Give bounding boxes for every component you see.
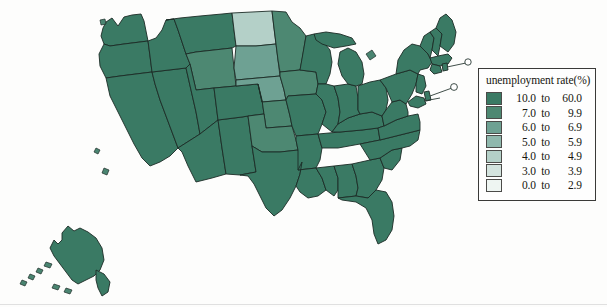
aleutian-island-6 (64, 288, 72, 294)
legend-label: 4.0to4.9 (513, 150, 582, 162)
legend-row[interactable]: 5.0to5.9 (486, 135, 589, 150)
state-fl[interactable] (338, 190, 394, 244)
legend-swatch (486, 179, 502, 192)
coastal-island-1 (100, 19, 106, 25)
legend-swatch (486, 150, 502, 163)
state-mi-lower[interactable] (338, 48, 364, 86)
legend-swatch (486, 164, 502, 177)
legend-row[interactable]: 0.0to2.9 (486, 178, 589, 193)
state-sd[interactable] (234, 44, 280, 80)
aleutian-island-5 (52, 284, 60, 290)
legend-row[interactable]: 10.0to60.0 (486, 91, 589, 106)
state-wa[interactable] (101, 14, 148, 46)
legend-row[interactable]: 3.0to3.9 (486, 164, 589, 179)
coastal-island-3 (102, 168, 109, 175)
legend-label: 0.0to2.9 (513, 179, 582, 191)
aleutian-island-4 (20, 280, 27, 286)
leader-dot-de (451, 84, 458, 91)
state-nd[interactable] (232, 11, 276, 46)
legend-row[interactable]: 4.0to4.9 (486, 149, 589, 164)
leader-dot-ri (465, 59, 471, 65)
coastal-island-2 (94, 148, 100, 154)
legend-row[interactable]: 7.0to9.9 (486, 106, 589, 121)
coastal-island-4 (366, 50, 376, 60)
legend-label: 7.0to9.9 (513, 107, 582, 119)
leader-line-ri (447, 63, 466, 67)
aleutian-island-3 (28, 274, 35, 280)
legend-swatch (486, 121, 502, 134)
aleutian-island-2 (36, 268, 43, 274)
legend-swatch (486, 106, 502, 119)
state-ar[interactable] (296, 134, 322, 170)
aleutian-island-1 (44, 262, 52, 268)
legend-swatch (486, 92, 502, 105)
legend-label: 3.0to3.9 (513, 165, 582, 177)
legend-label: 6.0to6.9 (513, 121, 582, 133)
state-or[interactable] (99, 41, 152, 78)
leader-line-de (430, 88, 452, 96)
legend-rows: 10.0to60.07.0to9.96.0to6.95.0to5.94.0to4… (486, 91, 589, 193)
map-legend: unemployment rate(%) 10.0to60.07.0to9.96… (478, 68, 596, 201)
legend-swatch (486, 135, 502, 148)
state-ak-panhandle[interactable] (96, 270, 110, 296)
choropleth-figure: unemployment rate(%) 10.0to60.07.0to9.96… (0, 0, 607, 307)
legend-row[interactable]: 6.0to6.9 (486, 120, 589, 135)
legend-title: unemployment rate(%) (486, 74, 589, 87)
state-md[interactable] (408, 96, 426, 108)
scan-artifact-line (0, 304, 607, 305)
legend-label: 10.0to60.0 (513, 92, 582, 104)
legend-label: 5.0to5.9 (513, 136, 582, 148)
state-nj[interactable] (416, 74, 426, 94)
